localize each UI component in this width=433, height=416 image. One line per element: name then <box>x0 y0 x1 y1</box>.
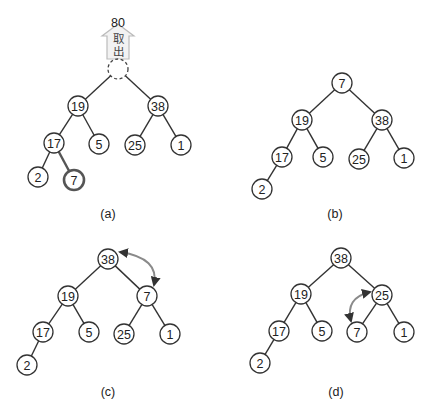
heap-node: 2 <box>250 353 270 373</box>
tree-edge-d <box>363 303 377 323</box>
heap-node: 2 <box>252 179 272 199</box>
tree-edge-b <box>387 129 399 150</box>
tree-edge-c <box>75 266 100 289</box>
heap-node: 1 <box>160 324 180 344</box>
heap-node: 7 <box>332 73 352 93</box>
node-value: 17 <box>275 151 289 165</box>
node-value: 5 <box>319 325 326 339</box>
heap-node: 25 <box>125 135 145 155</box>
tree-edge-a <box>85 76 110 99</box>
tree-edge-a <box>59 114 72 134</box>
extract-label-line2: 出 <box>113 45 124 59</box>
node-value: 38 <box>375 114 389 128</box>
tree-edge-d <box>265 340 274 355</box>
heap-node: 5 <box>313 147 333 167</box>
panel-label-b: (b) <box>327 207 342 221</box>
node-value: 7 <box>339 77 346 91</box>
heap-node: 2 <box>28 167 48 187</box>
node-value: 19 <box>71 100 85 114</box>
tree-edge-b <box>364 129 377 151</box>
tree-edge-d <box>348 265 374 289</box>
node-value: 17 <box>47 137 61 151</box>
node-value: 19 <box>61 290 75 304</box>
tree-edge-d <box>284 303 296 323</box>
node-value: 7 <box>144 290 151 304</box>
tree-edge-d <box>306 303 317 323</box>
node-value: 5 <box>86 326 93 340</box>
heap-node: 25 <box>372 285 392 305</box>
tree-edge-a <box>163 115 176 137</box>
tree-edge-a <box>83 115 94 135</box>
tree-edge-c <box>152 305 165 326</box>
node-value: 19 <box>295 114 309 128</box>
heap-node: 19 <box>68 96 88 116</box>
node-value: 25 <box>375 289 389 303</box>
tree-edge-c <box>49 304 63 324</box>
tree-edge-a <box>140 115 153 137</box>
extracted-value: 80 <box>111 16 125 30</box>
tree-edge-d <box>308 265 333 288</box>
heap-node: 38 <box>331 248 351 268</box>
node-value: 17 <box>272 325 286 339</box>
tree-edge-b <box>307 129 318 149</box>
heap-node: 5 <box>79 322 99 342</box>
node-value: 38 <box>151 100 165 114</box>
node-value: 38 <box>101 253 115 267</box>
panel-label-a: (a) <box>100 207 115 221</box>
heap-node: 2 <box>17 355 37 375</box>
node-value: 2 <box>35 171 42 185</box>
node-circle <box>108 59 128 79</box>
heap-node <box>108 59 128 79</box>
panel-label-d: (d) <box>328 385 343 399</box>
tree-edge-c <box>73 305 84 324</box>
tree-edge-b <box>309 90 334 113</box>
heap-node: 25 <box>349 149 369 169</box>
heap-node: 25 <box>114 324 134 344</box>
node-value: 25 <box>117 328 131 342</box>
heap-node: 7 <box>347 322 367 342</box>
heap-node: 19 <box>291 284 311 304</box>
heap-node: 5 <box>89 134 109 154</box>
node-value: 5 <box>320 151 327 165</box>
tree-edge-c <box>115 266 139 289</box>
heap-node: 7 <box>137 286 157 306</box>
node-value: 19 <box>294 288 308 302</box>
heap-node: 5 <box>312 321 332 341</box>
swap-arrow-icon <box>120 252 155 285</box>
node-value: 2 <box>24 359 31 373</box>
heap-node: 38 <box>372 110 392 130</box>
node-value: 38 <box>334 252 348 266</box>
heap-node: 38 <box>148 96 168 116</box>
heap-node: 1 <box>171 135 191 155</box>
node-value: 7 <box>71 174 78 188</box>
tree-edge-c <box>31 341 38 356</box>
node-value: 7 <box>354 326 361 340</box>
heap-node: 17 <box>272 147 292 167</box>
node-value: 25 <box>352 153 366 167</box>
tree-edge-a <box>59 152 69 171</box>
node-value: 1 <box>401 326 408 340</box>
node-value: 2 <box>257 357 264 371</box>
heap-node: 1 <box>394 148 414 168</box>
node-value: 25 <box>128 139 142 153</box>
heap-node: 19 <box>58 286 78 306</box>
panel-label-c: (c) <box>101 385 116 399</box>
heap-diagram: 80 取 出 193817525127719381752512381971752… <box>0 0 433 416</box>
tree-edge-b <box>287 129 297 148</box>
node-value: 2 <box>259 183 266 197</box>
heap-node: 7 <box>64 170 84 190</box>
tree-edge-b <box>267 165 276 180</box>
tree-edge-c <box>129 305 142 326</box>
node-value: 1 <box>401 152 408 166</box>
heap-node: 17 <box>33 322 53 342</box>
extract-annotation: 80 取 出 <box>102 16 134 59</box>
node-value: 5 <box>96 138 103 152</box>
node-value: 1 <box>167 328 174 342</box>
extract-label-line1: 取 <box>113 32 125 46</box>
tree-edge-d <box>387 304 399 324</box>
heap-node: 17 <box>44 133 64 153</box>
tree-edge-b <box>349 90 374 113</box>
node-value: 17 <box>36 326 50 340</box>
node-value: 1 <box>178 139 185 153</box>
tree-edge-a <box>125 76 150 99</box>
